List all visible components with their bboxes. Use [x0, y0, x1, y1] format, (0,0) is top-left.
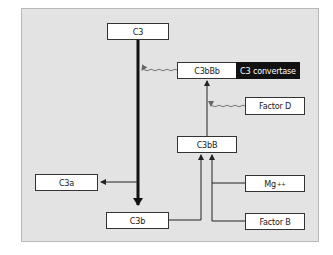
convertase-wavy-arrow — [142, 69, 177, 71]
node-c3b: C3b — [106, 212, 169, 229]
c3-convertase-label: C3 convertase — [236, 62, 300, 79]
node-factor-b: Factor B — [245, 213, 305, 230]
node-mg: Mg++ — [245, 175, 305, 192]
node-c3bbb: C3bBb — [177, 62, 237, 79]
node-factor-d: Factor D — [245, 97, 305, 115]
factor-b-to-c3bb-arrow — [212, 155, 245, 221]
node-c3bb: C3bB — [177, 136, 237, 153]
factor-d-wavy-arrow — [211, 105, 245, 107]
mg-charge: ++ — [277, 181, 286, 187]
node-c3a: C3a — [35, 174, 98, 191]
mg-label: Mg — [264, 179, 276, 189]
node-c3: C3 — [107, 23, 169, 40]
c3b-to-c3bb-arrow — [168, 155, 201, 220]
